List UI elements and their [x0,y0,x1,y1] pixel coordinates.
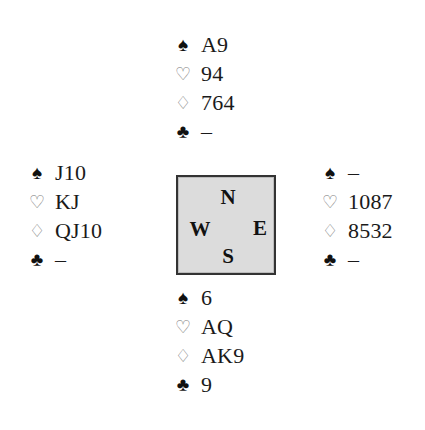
east-hearts-row: ♡ 1087 [318,187,393,216]
club-icon: ♣ [171,122,195,141]
compass-north-label: N [220,187,235,208]
spade-icon: ♠ [171,35,195,54]
east-spades-row: ♠ – [318,158,393,187]
north-hand: ♠ A9 ♡ 94 ♢ 764 ♣ – [171,30,235,146]
heart-icon: ♡ [171,318,195,336]
compass-south-label: S [222,246,234,267]
east-spades-cards: – [348,162,359,184]
west-hearts-cards: KJ [55,191,80,213]
west-hearts-row: ♡ KJ [25,187,102,216]
south-hearts-cards: AQ [201,316,233,338]
south-clubs-row: ♣ 9 [171,370,244,399]
spade-icon: ♠ [171,288,195,307]
south-spades-row: ♠ 6 [171,283,244,312]
west-spades-cards: J10 [55,162,86,184]
diamond-icon: ♢ [171,94,195,112]
west-spades-row: ♠ J10 [25,158,102,187]
south-diamonds-row: ♢ AK9 [171,341,244,370]
west-diamonds-row: ♢ QJ10 [25,216,102,245]
north-hearts-cards: 94 [201,63,223,85]
south-hearts-row: ♡ AQ [171,312,244,341]
heart-icon: ♡ [318,193,342,211]
heart-icon: ♡ [171,65,195,83]
north-spades-cards: A9 [201,34,228,56]
east-clubs-cards: – [348,249,359,271]
east-hand: ♠ – ♡ 1087 ♢ 8532 ♣ – [318,158,393,274]
west-clubs-row: ♣ – [25,245,102,274]
south-diamonds-cards: AK9 [201,345,244,367]
diamond-icon: ♢ [318,222,342,240]
north-clubs-row: ♣ – [171,117,235,146]
compass-east-label: E [253,218,267,239]
south-hand: ♠ 6 ♡ AQ ♢ AK9 ♣ 9 [171,283,244,399]
west-hand: ♠ J10 ♡ KJ ♢ QJ10 ♣ – [25,158,102,274]
club-icon: ♣ [25,250,49,269]
north-diamonds-row: ♢ 764 [171,88,235,117]
heart-icon: ♡ [25,193,49,211]
diamond-icon: ♢ [171,347,195,365]
south-clubs-cards: 9 [201,374,212,396]
club-icon: ♣ [318,250,342,269]
spade-icon: ♠ [25,163,49,182]
north-diamonds-cards: 764 [201,92,235,114]
compass-box: N W E S [176,175,276,275]
north-hearts-row: ♡ 94 [171,59,235,88]
east-diamonds-cards: 8532 [348,220,393,242]
south-spades-cards: 6 [201,287,212,309]
north-clubs-cards: – [201,121,212,143]
diamond-icon: ♢ [25,222,49,240]
club-icon: ♣ [171,375,195,394]
north-spades-row: ♠ A9 [171,30,235,59]
east-hearts-cards: 1087 [348,191,393,213]
compass-west-label: W [190,219,211,240]
east-clubs-row: ♣ – [318,245,393,274]
west-diamonds-cards: QJ10 [55,220,102,242]
spade-icon: ♠ [318,163,342,182]
west-clubs-cards: – [55,249,66,271]
east-diamonds-row: ♢ 8532 [318,216,393,245]
